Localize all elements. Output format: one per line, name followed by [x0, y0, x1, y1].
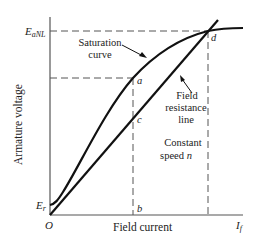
field-resistance-label-line1: Field [176, 90, 198, 101]
saturation-curve-label-line2: curve [88, 49, 112, 60]
point-d-label: d [211, 32, 217, 43]
point-b-label: b [137, 203, 142, 214]
field-resistance-label-line3: line [178, 114, 194, 125]
constant-speed-label-line2: speed n [160, 150, 192, 161]
constant-speed-label-line1: Constant [164, 137, 201, 148]
x-axis-title: Field current [113, 221, 173, 233]
eanl-label: EaNL [24, 25, 46, 39]
if-label: If [235, 219, 244, 233]
point-a-label: a [137, 75, 142, 86]
saturation-arrow [122, 45, 147, 58]
field-resistance-label-line2: resistance [165, 102, 207, 113]
origin-label: O [45, 219, 53, 231]
point-c-label: c [137, 114, 142, 125]
saturation-curve [50, 28, 243, 205]
saturation-curve-label: Saturation [78, 37, 122, 48]
er-label: Er [35, 199, 47, 213]
diagram-canvas: EaNL Er O Armature voltage Field current… [0, 0, 257, 245]
y-axis-title: Armature voltage [12, 84, 25, 165]
